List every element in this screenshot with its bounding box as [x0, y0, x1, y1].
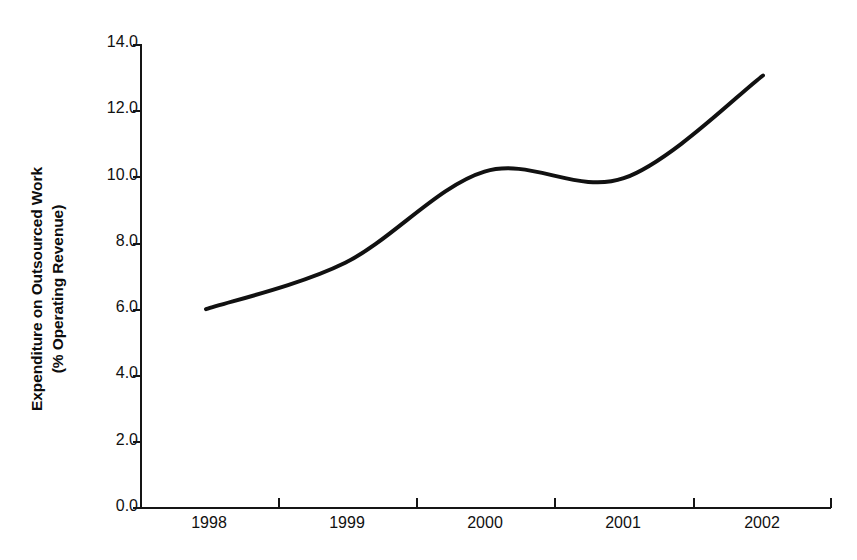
plot-area [0, 0, 857, 560]
y-tick-marks [133, 45, 140, 509]
chart-figure: Expenditure on Outsourced Work (% Operat… [0, 0, 857, 560]
series-line-expenditure [206, 75, 763, 309]
